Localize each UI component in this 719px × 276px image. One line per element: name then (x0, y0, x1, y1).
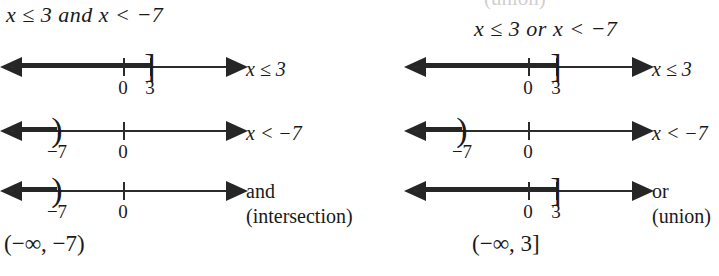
right-arrowhead-icon (226, 121, 248, 141)
row-label: x ≤ 3 (246, 58, 286, 81)
tick-mark (528, 182, 530, 200)
right-arrowhead-icon (632, 121, 654, 141)
endpoint-bracket: ] (138, 49, 162, 83)
tick-label: 0 (108, 141, 138, 163)
number-line-row-x-lt-neg7: −7 0 ) x < −7 (380, 112, 719, 168)
row-label-secondary: (union) (652, 205, 711, 228)
row-label: x < −7 (652, 122, 708, 145)
solution-shading (418, 63, 556, 68)
right-arrowhead-icon (226, 57, 248, 77)
number-line-row-intersection: −7 0 ) and (intersection) (0, 172, 400, 228)
tick-mark (123, 182, 125, 200)
endpoint-bracket: ] (544, 49, 568, 83)
endpoint-parenthesis: ) (450, 113, 474, 147)
number-line-row-x-le-3: 0 3 ] x ≤ 3 (0, 48, 400, 104)
or-column-heading: x ≤ 3 or x < −7 (474, 16, 617, 42)
clipped-top-text: (union) (484, 0, 546, 11)
and-heading-rhs: x < −7 (93, 2, 163, 27)
and-heading-operator: and (58, 2, 93, 27)
number-line-row-union: 0 3 ] or (union) (380, 172, 719, 228)
or-heading-operator: or (526, 16, 547, 41)
right-arrowhead-icon (632, 181, 654, 201)
tick-label: 0 (513, 201, 543, 223)
row-label-primary: and (246, 180, 275, 202)
right-arrowhead-icon (632, 57, 654, 77)
tick-mark (123, 58, 125, 76)
row-label: and (intersection) (246, 180, 353, 228)
interval-notation-or: (−∞, 3] (472, 231, 540, 257)
tick-mark (528, 58, 530, 76)
row-label: x < −7 (246, 122, 302, 145)
solution-shading (418, 187, 556, 192)
or-heading-lhs: x ≤ 3 (474, 16, 526, 41)
or-column: (union) x ≤ 3 or x < −7 0 3 ] x ≤ 3 −7 (380, 0, 719, 276)
row-label: or (union) (652, 180, 711, 228)
number-line-row-x-le-3: 0 3 ] x ≤ 3 (380, 48, 719, 104)
tick-label: 0 (108, 201, 138, 223)
endpoint-bracket: ] (544, 173, 568, 207)
tick-mark (123, 122, 125, 140)
tick-mark (528, 122, 530, 140)
endpoint-parenthesis: ) (45, 113, 69, 147)
and-heading-lhs: x ≤ 3 (6, 2, 58, 27)
and-column-heading: x ≤ 3 and x < −7 (6, 2, 163, 28)
tick-label: 0 (513, 141, 543, 163)
number-line-row-x-lt-neg7: −7 0 ) x < −7 (0, 112, 400, 168)
tick-label: 0 (513, 77, 543, 99)
tick-label: 0 (108, 77, 138, 99)
row-label-secondary: (intersection) (246, 205, 353, 228)
or-heading-rhs: x < −7 (547, 16, 617, 41)
number-line-figure: x ≤ 3 and x < −7 0 3 ] x ≤ 3 −7 0 ) (0, 0, 719, 276)
endpoint-parenthesis: ) (45, 173, 69, 207)
solution-shading (14, 63, 150, 68)
row-label-primary: or (652, 180, 669, 202)
and-column: x ≤ 3 and x < −7 0 3 ] x ≤ 3 −7 0 ) (0, 0, 400, 276)
right-arrowhead-icon (226, 181, 248, 201)
interval-notation-and: (−∞, −7) (4, 231, 85, 257)
row-label: x ≤ 3 (652, 58, 692, 81)
